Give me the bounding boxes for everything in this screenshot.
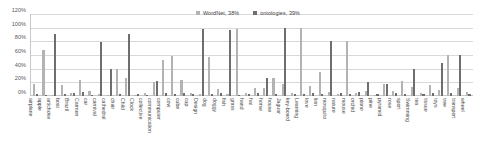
bar-wordnet bbox=[208, 57, 210, 96]
bar-group bbox=[77, 14, 86, 96]
bar-ontologies bbox=[330, 41, 332, 96]
bar-group bbox=[197, 14, 206, 96]
y-axis-tick-label: 0% bbox=[18, 89, 26, 95]
bar-ontologies bbox=[450, 93, 452, 96]
bar-group bbox=[464, 14, 473, 96]
bar-ontologies bbox=[211, 94, 213, 96]
x-axis-tick-label: chair bbox=[110, 98, 115, 109]
bar-ontologies bbox=[257, 93, 259, 96]
bar-ontologies bbox=[266, 78, 268, 96]
bar-group bbox=[123, 14, 132, 96]
x-axis-tick: Carmen bbox=[77, 97, 86, 163]
bar-series-container bbox=[31, 14, 473, 96]
bar-ontologies bbox=[349, 94, 351, 96]
bar-group bbox=[362, 14, 371, 96]
x-axis-tick-label: Design bbox=[193, 98, 198, 114]
bar-group bbox=[141, 14, 150, 96]
x-axis-tick-label: collective bbox=[138, 98, 143, 119]
bar-group bbox=[59, 14, 68, 96]
bar-group bbox=[344, 14, 353, 96]
x-axis-tick-label: Child bbox=[120, 98, 125, 110]
bar-group bbox=[353, 14, 362, 96]
bar-ontologies bbox=[422, 94, 424, 96]
bar-group bbox=[68, 14, 77, 96]
bar-ontologies bbox=[303, 94, 305, 96]
bar-group bbox=[187, 14, 196, 96]
x-axis-tick-label: grass bbox=[230, 98, 235, 111]
bar-group bbox=[399, 14, 408, 96]
x-axis-tick-label: hand bbox=[239, 98, 244, 110]
x-axis-tick-label: tissue bbox=[423, 98, 428, 112]
bar-ontologies bbox=[192, 94, 194, 96]
bar-ontologies bbox=[137, 94, 139, 96]
bar-ontologies bbox=[183, 93, 185, 96]
bar-ontologies bbox=[312, 93, 314, 96]
bar-group bbox=[178, 14, 187, 96]
x-axis-tick-label: cube bbox=[175, 98, 180, 109]
x-axis-tick-label: cathedral bbox=[101, 98, 106, 119]
bar-group bbox=[252, 14, 261, 96]
x-axis-tick-label: horse bbox=[258, 98, 263, 111]
bar-group bbox=[224, 14, 233, 96]
bar-ontologies bbox=[395, 93, 397, 96]
y-axis-tick-label: 120% bbox=[12, 7, 26, 13]
bar-group bbox=[381, 14, 390, 96]
bar-group bbox=[326, 14, 335, 96]
bar-ontologies bbox=[119, 94, 121, 96]
bar-ontologies bbox=[386, 84, 388, 96]
bar-ontologies bbox=[110, 69, 112, 96]
bar-group bbox=[335, 14, 344, 96]
bar-ontologies bbox=[91, 95, 93, 96]
x-axis-tick-label: key-board bbox=[285, 98, 290, 121]
bar-wordnet bbox=[319, 72, 321, 96]
bar-group bbox=[233, 14, 242, 96]
bar-group bbox=[316, 14, 325, 96]
bar-wordnet bbox=[116, 69, 118, 96]
x-axis-tick-label: Swimming bbox=[405, 98, 410, 122]
x-axis-tick-label: Brazil bbox=[64, 98, 69, 111]
bar-ontologies bbox=[156, 81, 158, 96]
x-axis-tick-label: orchid bbox=[350, 98, 355, 112]
x-axis-tick-label: tea bbox=[414, 98, 419, 105]
bar-ontologies bbox=[238, 95, 240, 96]
legend-entry-wordnet: WordNet, 38% bbox=[196, 10, 239, 16]
x-axis-tick-label: computer bbox=[156, 98, 161, 120]
y-axis-tick-label: 20% bbox=[15, 75, 26, 81]
bar-group bbox=[86, 14, 95, 96]
x-axis-tick-label: nature bbox=[331, 98, 336, 113]
legend-swatch-wordnet bbox=[196, 11, 200, 15]
x-axis-tick: hand bbox=[243, 97, 252, 163]
x-axis-tick-label: tree bbox=[442, 98, 447, 107]
x-axis-tick-label: hat bbox=[248, 98, 253, 105]
bar-group bbox=[427, 14, 436, 96]
bar-wordnet bbox=[42, 50, 44, 96]
bar-ontologies bbox=[100, 42, 102, 96]
bar-ontologies bbox=[36, 94, 38, 96]
x-axis-tick: Swimming bbox=[408, 97, 417, 163]
x-axis-tick-label: Learning bbox=[294, 98, 299, 118]
bar-ontologies bbox=[64, 94, 66, 96]
legend-label-ontologies: ontologies, 39% bbox=[260, 10, 300, 16]
bar-group bbox=[454, 14, 463, 96]
legend-label-wordnet: WordNet, 38% bbox=[203, 10, 239, 16]
x-axis-tick-label: sport bbox=[396, 98, 401, 110]
x-axis-tick-label: house bbox=[267, 98, 272, 112]
x-axis-tick-label: cup bbox=[184, 98, 189, 106]
bar-wordnet bbox=[300, 28, 302, 96]
bar-ontologies bbox=[294, 94, 296, 96]
bar-group bbox=[215, 14, 224, 96]
x-axis-tick-label: fish bbox=[221, 98, 226, 106]
bar-ontologies bbox=[248, 94, 250, 96]
x-axis-tick-label: mouse bbox=[340, 98, 345, 114]
x-axis-tick-label: apple bbox=[37, 98, 42, 111]
x-axis-tick-label: airplane bbox=[28, 98, 33, 116]
bar-ontologies bbox=[432, 93, 434, 96]
y-axis-tick-label: 100% bbox=[12, 21, 26, 27]
legend-swatch-ontologies bbox=[253, 11, 257, 15]
bar-group bbox=[105, 14, 114, 96]
x-axis-tick: doggy bbox=[215, 97, 224, 163]
bar-ontologies bbox=[54, 34, 56, 96]
x-axis-tick-label: pine bbox=[368, 98, 373, 108]
bar-group bbox=[114, 14, 123, 96]
bar-ontologies bbox=[73, 93, 75, 96]
